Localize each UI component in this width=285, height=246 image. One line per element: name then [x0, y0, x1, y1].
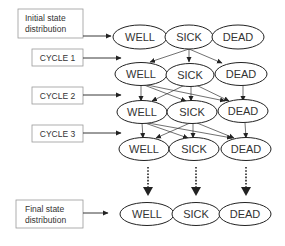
- svg-text:DEAD: DEAD: [226, 68, 257, 80]
- svg-text:SICK: SICK: [179, 106, 205, 118]
- svg-text:WELL: WELL: [132, 208, 162, 220]
- svg-text:CYCLE 3: CYCLE 3: [40, 129, 76, 139]
- svg-text:distribution: distribution: [25, 24, 66, 34]
- svg-text:WELL: WELL: [129, 143, 159, 155]
- transitions-cycle-3: [142, 123, 246, 138]
- svg-text:DEAD: DEAD: [223, 31, 254, 43]
- state-dead: DEAD: [212, 25, 264, 49]
- svg-text:Initial state: Initial state: [25, 13, 66, 23]
- row-final: WELL SICK DEAD: [120, 203, 271, 226]
- final-state-label: Final state distribution: [16, 200, 83, 228]
- initial-state-label: Initial state distribution: [18, 9, 83, 38]
- state-dead: DEAD: [218, 100, 268, 123]
- svg-text:Final state: Final state: [25, 204, 64, 214]
- state-dead: DEAD: [219, 203, 271, 226]
- state-well: WELL: [119, 138, 169, 161]
- cycle-1-label: CYCLE 1: [32, 49, 83, 66]
- state-well: WELL: [115, 63, 167, 86]
- transitions-cycle-1: [150, 49, 222, 63]
- row-cycle-1: WELL SICK DEAD: [115, 63, 267, 87]
- svg-text:SICK: SICK: [176, 31, 202, 43]
- svg-text:SICK: SICK: [183, 208, 209, 220]
- state-dead: DEAD: [221, 138, 271, 161]
- svg-text:WELL: WELL: [126, 68, 156, 80]
- state-sick: SICK: [169, 138, 219, 161]
- state-sick: SICK: [165, 25, 213, 49]
- svg-text:distribution: distribution: [25, 215, 66, 225]
- cycle-3-label: CYCLE 3: [32, 125, 83, 142]
- markov-diagram: Initial state distribution CYCLE 1 CYCLE…: [0, 0, 285, 246]
- svg-text:CYCLE 2: CYCLE 2: [40, 91, 76, 101]
- svg-text:SICK: SICK: [181, 143, 207, 155]
- ellipsis-arrows: [143, 167, 251, 196]
- state-well: WELL: [113, 25, 167, 49]
- svg-text:WELL: WELL: [127, 106, 157, 118]
- state-dead: DEAD: [215, 63, 267, 86]
- row-cycle-3: WELL SICK DEAD: [119, 138, 271, 161]
- row-cycle-2: WELL SICK DEAD: [117, 100, 268, 124]
- state-well: WELL: [120, 203, 174, 226]
- state-sick: SICK: [167, 101, 217, 124]
- svg-text:DEAD: DEAD: [230, 208, 261, 220]
- cycle-2-label: CYCLE 2: [32, 87, 83, 104]
- state-sick: SICK: [166, 64, 214, 87]
- state-well: WELL: [117, 101, 167, 124]
- state-sick: SICK: [172, 203, 220, 226]
- svg-text:DEAD: DEAD: [228, 105, 259, 117]
- transitions-cycle-2: [141, 85, 243, 101]
- svg-text:CYCLE 1: CYCLE 1: [40, 53, 76, 63]
- svg-text:WELL: WELL: [125, 31, 155, 43]
- row-initial: WELL SICK DEAD: [113, 25, 264, 49]
- svg-text:SICK: SICK: [177, 69, 203, 81]
- svg-text:DEAD: DEAD: [231, 143, 262, 155]
